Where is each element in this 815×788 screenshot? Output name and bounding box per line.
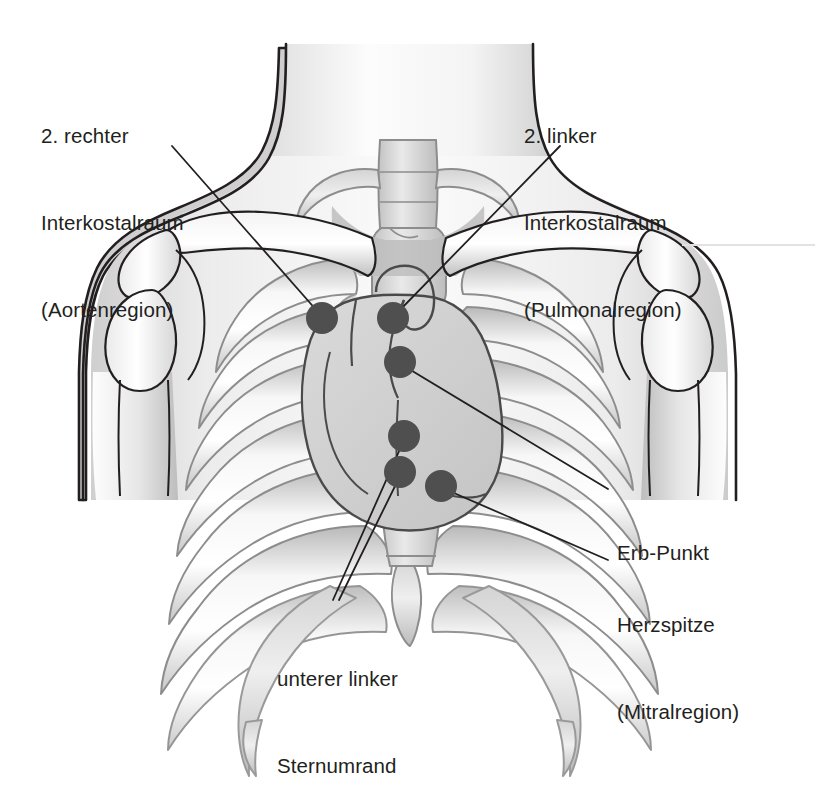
label-tricuspid-region: unterer linker Sternumrand (Trikuspidalr… (277, 606, 448, 788)
label-tricuspid-line-2: Sternumrand (277, 751, 448, 780)
label-apex-mitral-region: Herzspitze (Mitralregion) (617, 552, 739, 755)
label-aortic-line-3: (Aortenregion) (41, 295, 184, 324)
auscultation-point-apex (425, 470, 457, 502)
label-pulmonic-line-3: (Pulmonalregion) (524, 295, 682, 324)
label-pulmonic-line-2: Interkostalraum (524, 208, 682, 237)
auscultation-point-aortic (306, 302, 338, 334)
label-aortic-region: 2. rechter Interkostalraum (Aortenregion… (41, 63, 184, 353)
label-tricuspid-line-1: unterer linker (277, 664, 448, 693)
auscultation-point-pulmonic (377, 302, 409, 334)
label-pulmonic-region: 2. linker Interkostalraum (Pulmonalregio… (524, 63, 682, 353)
label-aortic-line-1: 2. rechter (41, 121, 184, 150)
auscultation-point-erb (384, 346, 416, 378)
label-apex-line-2: (Mitralregion) (617, 697, 739, 726)
auscultation-point-tricuspid-lower (384, 456, 416, 488)
auscultation-point-tricuspid-upper (388, 420, 420, 452)
vertebral-column (379, 140, 438, 228)
label-aortic-line-2: Interkostalraum (41, 208, 184, 237)
label-apex-line-1: Herzspitze (617, 610, 739, 639)
label-pulmonic-line-1: 2. linker (524, 121, 682, 150)
